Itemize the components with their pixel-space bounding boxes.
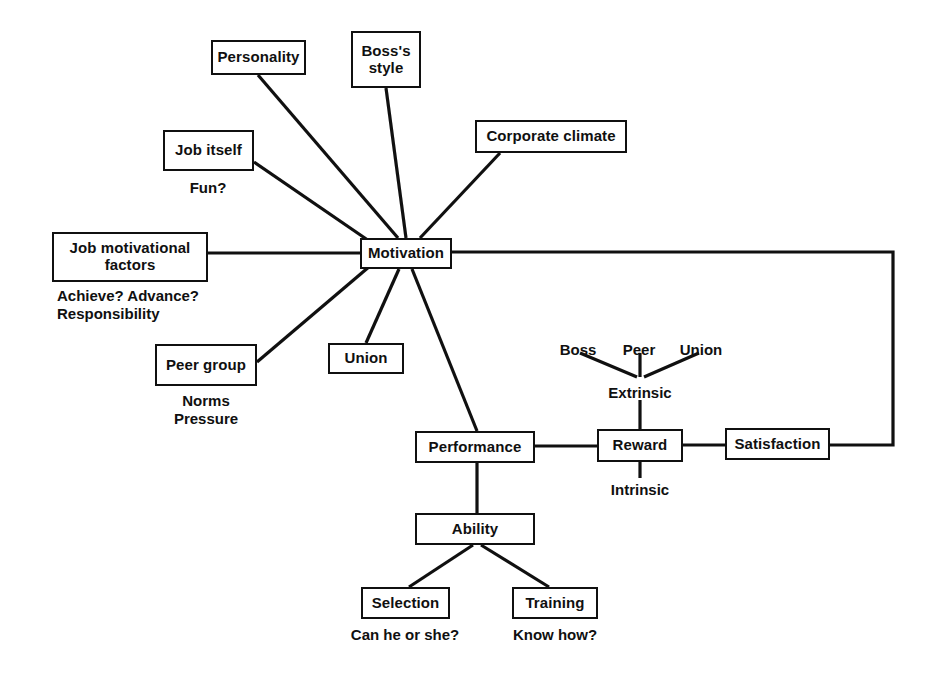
node-satisfaction[interactable]: Satisfaction bbox=[725, 428, 830, 460]
annotation-norms-pressure: Norms Pressure bbox=[174, 392, 238, 428]
node-selection[interactable]: Selection bbox=[361, 587, 450, 619]
edge-job-itself-motivation bbox=[254, 162, 375, 245]
annotation-peer: Peer bbox=[623, 341, 656, 359]
node-label: Performance bbox=[425, 439, 526, 456]
edge-ability-selection bbox=[409, 545, 473, 587]
node-job-itself[interactable]: Job itself bbox=[163, 130, 254, 171]
edge-layer bbox=[0, 0, 928, 676]
edge-satisfaction-motivation-feedback bbox=[452, 252, 893, 445]
node-label: Training bbox=[521, 595, 588, 612]
node-performance[interactable]: Performance bbox=[415, 431, 535, 463]
annotation-extrinsic: Extrinsic bbox=[608, 384, 671, 402]
node-label: Job motivational factors bbox=[66, 240, 195, 274]
node-label: Selection bbox=[368, 595, 444, 612]
node-label: Motivation bbox=[364, 245, 448, 262]
node-label: Satisfaction bbox=[730, 436, 824, 453]
annotation-achieve-advance: Achieve? Advance? Responsibility bbox=[57, 287, 199, 323]
edge-ability-training bbox=[481, 545, 549, 587]
annotation-boss: Boss bbox=[560, 341, 597, 359]
node-bosss-style[interactable]: Boss's style bbox=[351, 31, 421, 88]
node-job-motivational-factors[interactable]: Job motivational factors bbox=[52, 232, 208, 282]
annotation-know-how: Know how? bbox=[513, 626, 597, 644]
edge-motivation-performance bbox=[412, 269, 477, 431]
annotation-fun: Fun? bbox=[190, 179, 227, 197]
edge-corporate-climate-motivation bbox=[420, 153, 500, 238]
node-label: Personality bbox=[214, 49, 304, 66]
node-label: Corporate climate bbox=[482, 128, 619, 145]
node-union[interactable]: Union bbox=[328, 343, 404, 374]
annotation-intrinsic: Intrinsic bbox=[611, 481, 669, 499]
diagram-canvas: Personality Boss's style Corporate clima… bbox=[0, 0, 928, 676]
node-label: Boss's style bbox=[357, 43, 414, 77]
node-peer-group[interactable]: Peer group bbox=[155, 344, 257, 386]
node-label: Peer group bbox=[162, 357, 250, 374]
node-motivation[interactable]: Motivation bbox=[360, 238, 452, 269]
annotation-can-he-or-she: Can he or she? bbox=[351, 626, 459, 644]
edge-bosss-style-motivation bbox=[386, 88, 406, 238]
node-label: Reward bbox=[609, 437, 672, 454]
edge-motivation-union bbox=[366, 269, 399, 343]
node-corporate-climate[interactable]: Corporate climate bbox=[475, 120, 627, 153]
node-reward[interactable]: Reward bbox=[597, 429, 683, 462]
node-personality[interactable]: Personality bbox=[211, 40, 306, 75]
node-label: Ability bbox=[448, 521, 503, 538]
node-ability[interactable]: Ability bbox=[415, 513, 535, 545]
node-training[interactable]: Training bbox=[512, 587, 598, 619]
annotation-union: Union bbox=[680, 341, 723, 359]
node-label: Union bbox=[341, 350, 392, 367]
node-label: Job itself bbox=[171, 142, 246, 159]
